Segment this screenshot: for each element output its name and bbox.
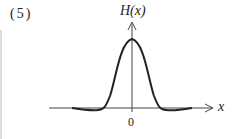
plot-area xyxy=(0,0,238,139)
